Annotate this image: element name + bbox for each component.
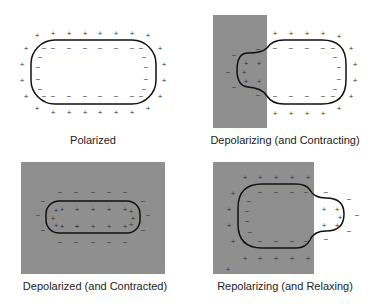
svg-text:+: + [130, 29, 135, 38]
svg-text:−: − [141, 197, 146, 206]
svg-text:+: + [244, 59, 249, 68]
depolarized-region [213, 15, 267, 128]
svg-text:+: + [289, 29, 294, 38]
svg-text:+: + [107, 205, 112, 214]
depolarized-region [213, 162, 314, 274]
svg-text:+: + [98, 29, 103, 38]
panel-polarized: ++++++++ ++++ ++++ ++++++++ −−−−−−−− −−−… [20, 29, 167, 117]
svg-text:+: + [306, 173, 311, 182]
svg-text:+: + [20, 76, 25, 85]
svg-text:+: + [321, 109, 326, 118]
svg-text:+: + [35, 31, 40, 40]
svg-text:−: − [144, 63, 149, 72]
svg-text:−: − [123, 188, 128, 197]
svg-text:−: − [146, 211, 151, 220]
svg-text:+: + [114, 29, 119, 38]
svg-text:+: + [273, 109, 278, 118]
svg-text:−: − [337, 75, 342, 84]
svg-text:−: − [51, 44, 56, 53]
svg-text:+: + [162, 76, 167, 85]
svg-text:−: − [321, 44, 326, 53]
svg-text:+: + [35, 104, 40, 113]
svg-text:+: + [257, 59, 262, 68]
svg-text:+: + [130, 108, 135, 117]
svg-text:−: − [304, 237, 309, 246]
depolarized-region [21, 162, 165, 274]
svg-text:−: − [347, 195, 352, 204]
svg-text:−: − [74, 188, 79, 197]
svg-text:−: − [98, 44, 103, 53]
svg-text:−: − [91, 238, 96, 247]
svg-text:−: − [38, 53, 43, 62]
svg-text:+: + [83, 29, 88, 38]
svg-text:+: + [162, 60, 167, 69]
svg-text:−: − [290, 188, 295, 197]
svg-text:+: + [24, 92, 29, 101]
svg-text:+: + [337, 32, 342, 41]
svg-text:−: − [114, 44, 119, 53]
svg-text:−: − [67, 44, 72, 53]
svg-text:+: + [226, 265, 231, 274]
svg-text:+: + [231, 189, 236, 198]
svg-text:+: + [273, 29, 278, 38]
negative-charges: −−−−−−−− −−−− −−−− −−−−−−−− [36, 44, 149, 101]
svg-text:+: + [67, 108, 72, 117]
svg-text:+: + [83, 108, 88, 117]
svg-text:−: − [141, 226, 146, 235]
svg-text:+: + [123, 205, 128, 214]
svg-text:−: − [130, 44, 135, 53]
svg-text:−: − [273, 44, 278, 53]
svg-text:−: − [232, 83, 237, 92]
panel-repolarizing: +++++ ++++ +++++ + +++++ −−−− −−−− −−−− … [213, 162, 360, 274]
svg-text:+: + [274, 173, 279, 182]
svg-text:−: − [248, 228, 253, 237]
svg-text:−: − [256, 45, 261, 54]
svg-text:+: + [129, 220, 134, 229]
svg-text:−: − [331, 92, 336, 101]
svg-text:+: + [306, 254, 311, 263]
svg-text:+: + [146, 104, 151, 113]
svg-text:+: + [243, 254, 248, 263]
svg-text:+: + [158, 92, 163, 101]
label-polarized: Polarized [43, 134, 143, 146]
svg-text:−: − [245, 217, 250, 226]
svg-text:+: + [290, 254, 295, 263]
svg-text:+: + [231, 237, 236, 246]
svg-text:−: − [58, 238, 63, 247]
svg-text:−: − [42, 44, 47, 53]
svg-text:−: − [123, 238, 128, 247]
svg-text:−: − [274, 237, 279, 246]
svg-text:+: + [321, 29, 326, 38]
svg-text:+: + [146, 31, 151, 40]
svg-text:+: + [91, 205, 96, 214]
svg-text:+: + [257, 77, 262, 86]
svg-text:−: − [142, 53, 147, 62]
svg-text:−: − [289, 92, 294, 101]
svg-text:−: − [74, 238, 79, 247]
panel-depolarized: −−−−− −−− −−− −−−−− +++++++ ++ +++++++ − [21, 162, 165, 274]
svg-text:−: − [144, 75, 149, 84]
svg-text:−: − [333, 53, 338, 62]
svg-text:+: + [51, 29, 56, 38]
svg-text:−: − [232, 51, 237, 60]
svg-text:+: + [305, 109, 310, 118]
svg-text:−: − [274, 188, 279, 197]
svg-text:−: − [324, 235, 329, 244]
svg-text:−: − [41, 226, 46, 235]
svg-text:−: − [273, 92, 278, 101]
svg-text:−: − [51, 92, 56, 101]
svg-text:+: + [51, 108, 56, 117]
svg-text:−: − [331, 44, 336, 53]
svg-text:+: + [349, 92, 354, 101]
svg-text:+: + [258, 254, 263, 263]
svg-text:+: + [107, 222, 112, 231]
svg-text:+: + [20, 60, 25, 69]
svg-text:+: + [353, 76, 358, 85]
svg-text:+: + [337, 104, 342, 113]
svg-text:+: + [227, 205, 232, 214]
svg-text:−: − [75, 222, 80, 231]
svg-text:−: − [289, 44, 294, 53]
svg-text:+: + [289, 109, 294, 118]
svg-text:+: + [353, 60, 358, 69]
svg-text:+: + [349, 44, 354, 53]
